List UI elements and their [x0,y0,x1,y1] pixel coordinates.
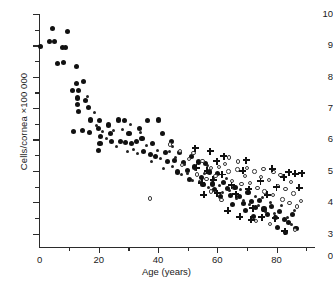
data-point [156,117,161,122]
y-tick-3 [33,234,39,235]
x-tick-minor-50 [188,248,189,251]
data-point [126,131,131,136]
data-point [267,178,271,182]
data-point [81,79,86,84]
x-tick-20 [99,248,100,253]
data-point [145,118,150,123]
data-point [126,150,129,153]
data-point [295,204,299,208]
data-point [105,137,108,140]
data-point [156,149,159,152]
data-point [52,39,57,44]
data-point [178,149,182,153]
scatter-plot-figure: Cells/cornea ×100 000 Age (years) 345678… [0,0,333,281]
data-point [71,129,76,134]
data-point [293,209,296,212]
data-point [61,60,66,65]
y-tick-6 [33,139,39,140]
data-point [97,118,102,123]
data-point [74,81,79,86]
data-point [159,157,162,160]
data-point [248,181,252,185]
data-point [50,26,55,31]
x-tick-60 [217,248,218,253]
data-point [115,145,118,148]
data-point [122,118,127,123]
data-point [290,212,295,217]
x-tick-80 [277,248,278,253]
data-point [80,128,85,133]
data-point [228,182,235,189]
data-point [228,189,231,192]
data-point [239,182,243,186]
y-tick-minor-9.5 [35,30,39,31]
data-point [132,148,135,151]
data-point [290,223,293,226]
data-point [180,173,183,176]
data-point [88,117,93,122]
data-point [195,172,199,176]
data-point [106,122,111,127]
data-point [116,117,121,122]
data-point [207,148,214,155]
data-point [221,180,226,185]
data-point [150,160,153,163]
y-axis-line [39,14,40,248]
data-point [148,152,153,157]
data-point [123,140,128,145]
data-point [204,167,211,174]
data-point [221,191,224,194]
data-point [264,191,271,198]
x-tick-minor-10 [69,248,70,251]
data-point [74,64,79,69]
y-tick-label-3: 3 [305,228,333,239]
data-point [191,179,194,182]
data-point [137,126,142,131]
data-point [139,131,142,134]
data-point [198,179,205,186]
data-point [162,167,165,170]
data-point [261,167,265,171]
data-point [245,186,252,193]
data-point [55,61,60,66]
data-point [268,222,272,226]
y-tick-label-4: 4 [305,196,333,207]
data-point [129,123,132,126]
y-tick-label-5: 5 [305,165,333,176]
y-tick-label-9: 9 [305,39,333,50]
data-point [239,167,246,174]
data-point [95,124,98,127]
data-point [192,145,199,152]
data-point [252,169,256,173]
y-tick-minor-3.5 [35,218,39,219]
x-tick-label-80: 80 [264,254,290,265]
data-point [227,155,231,159]
data-point [257,178,264,185]
data-point [134,139,139,144]
data-point [101,130,104,133]
data-point [83,98,88,103]
data-point [271,193,275,197]
data-point [180,163,184,167]
x-tick-minor-70 [247,248,248,251]
data-point [217,165,221,169]
data-point [220,153,227,160]
data-point [272,215,279,222]
y-tick-5 [33,171,39,172]
data-point [75,102,80,107]
data-point [289,180,293,184]
y-tick-label-10: 10 [305,8,333,19]
y-tick-8 [33,77,39,78]
data-point [239,188,242,191]
data-point [291,191,295,195]
data-point [254,195,257,198]
data-point [86,105,91,110]
y-tick-7 [33,108,39,109]
y-tick-label-6: 6 [305,133,333,144]
y-axis-label: Cells/cornea ×100 000 [18,42,29,202]
data-point [218,184,221,187]
data-point [213,158,220,165]
y-tick-minor-5.5 [35,155,39,156]
data-point [200,159,204,163]
data-point [232,191,239,198]
